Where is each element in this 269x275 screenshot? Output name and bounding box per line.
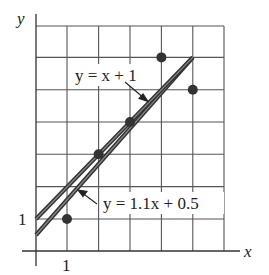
line1-label: y = x + 1 [75,66,137,85]
y-tick-1: 1 [18,210,27,229]
annotation-arrows [78,82,148,204]
data-point [188,85,198,95]
x-tick-1: 1 [62,256,71,275]
data-point [156,52,166,62]
x-axis-label: x [243,242,252,261]
data-point [62,214,72,224]
data-point [125,117,135,127]
line2-label: y = 1.1x + 0.5 [103,194,199,213]
y-axis-label: y [15,9,25,28]
chart-canvas: y = x + 1 y = 1.1x + 0.5 y x 1 1 [0,0,269,275]
data-point [94,149,104,159]
axes [22,14,240,266]
